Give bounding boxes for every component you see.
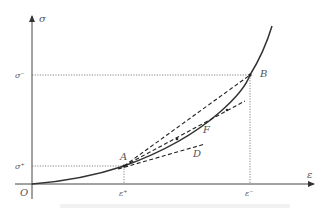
eps-plus-label: ε⁺ [119,189,128,198]
projection-guides [32,75,250,184]
sigma-plus-label: σ⁺ [15,162,25,171]
y-axis-label: σ [39,13,47,24]
sigma-minus-label: σ⁻ [15,71,25,80]
point-a-label: A [119,151,127,162]
eps-minus-label: ε⁻ [245,189,254,198]
point-f-marker-2 [226,109,229,112]
point-a [122,164,125,167]
secant-ab [124,75,250,166]
point-f-label: F [202,124,211,135]
point-b-label: B [259,68,267,79]
point-d-label: D [192,148,201,159]
point-f-marker [176,138,179,141]
stress-strain-curve [32,26,272,184]
origin-label: O [20,187,28,198]
faint-caption [60,204,290,208]
stress-strain-diagram: σ ε O σ⁻ σ⁺ ε⁺ ε⁻ A B D F [0,0,326,216]
tangent-ad [118,144,205,169]
dashed-lines [118,75,250,169]
x-axis-label: ε [307,169,312,180]
point-b [248,73,251,76]
